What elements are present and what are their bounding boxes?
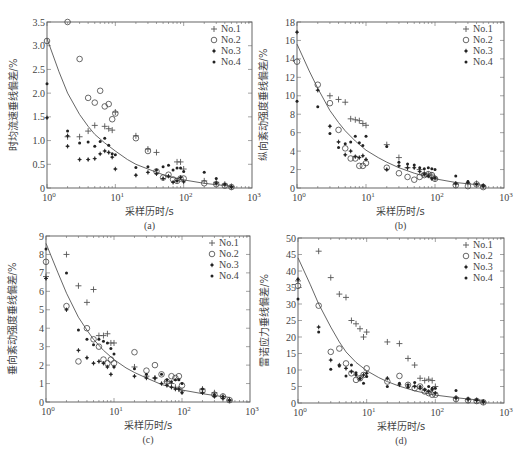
y-tick-label: 20	[286, 332, 296, 343]
marker-dot	[93, 145, 96, 148]
marker-dot	[66, 130, 69, 133]
x-tick-label: 103	[499, 191, 513, 203]
marker-dot	[102, 340, 105, 343]
marker-dot	[111, 152, 114, 155]
marker-dot	[406, 163, 409, 166]
y-axis-label: 纵向紊动强度垂线偏差/%	[257, 49, 269, 162]
y-tick-label: 35	[286, 282, 296, 293]
marker-dot	[361, 144, 364, 147]
marker-dot	[397, 161, 400, 164]
series-no4	[46, 82, 233, 188]
y-tick-label: 2.5	[33, 64, 46, 75]
y-tick-label: 0	[40, 183, 45, 194]
marker-star	[86, 157, 90, 161]
marker-star	[353, 154, 357, 158]
marker-dot	[431, 387, 434, 390]
marker-dot	[165, 378, 168, 381]
y-axis: 05101520253035404550	[286, 233, 504, 409]
panel-b: 100101102103024681012141618纵向紊动强度垂线偏差/%采…	[257, 17, 513, 233]
marker-dot	[107, 144, 110, 147]
marker-dot	[297, 298, 300, 301]
marker-plus	[429, 378, 435, 384]
marker-plus	[396, 155, 402, 161]
x-tick-label: 101	[361, 191, 375, 203]
marker-dot	[97, 338, 100, 341]
legend-label: No.1	[473, 23, 493, 34]
y-tick-label: 4	[39, 323, 44, 334]
marker-dot	[230, 185, 233, 188]
y-tick-label: 12	[285, 72, 295, 83]
marker-star	[132, 374, 136, 378]
marker-dot	[145, 373, 148, 376]
y-axis: 024681012141618	[285, 17, 504, 194]
y-tick-label: 0	[291, 398, 296, 409]
marker-plus	[356, 118, 362, 124]
marker-circle	[108, 357, 114, 363]
marker-circle	[176, 373, 182, 379]
marker-plus	[77, 134, 83, 140]
marker-plus	[342, 99, 348, 105]
marker-star	[210, 263, 214, 267]
legend-label: No.3	[473, 261, 493, 272]
y-tick-label: 0	[290, 183, 295, 194]
x-tick-label: 102	[177, 405, 191, 417]
x-tick-label: 102	[179, 191, 193, 203]
marker-dot	[329, 368, 332, 371]
marker-plus	[357, 326, 363, 332]
marker-plus	[209, 240, 215, 246]
marker-circle	[109, 116, 115, 122]
marker-star	[134, 173, 138, 177]
legend-label: No.2	[219, 248, 239, 259]
marker-dot	[85, 338, 88, 341]
marker-dot	[174, 378, 177, 381]
y-tick-label: 2	[39, 360, 44, 371]
series-no2	[44, 19, 234, 190]
legend-label: No.3	[473, 45, 493, 56]
marker-dot	[455, 389, 458, 392]
panel-c: 1001011021030123456789垂向紊动强度垂线偏差/%采样历时/s…	[6, 231, 259, 447]
marker-plus	[178, 159, 184, 165]
marker-star	[295, 30, 299, 34]
marker-star	[92, 361, 96, 365]
marker-plus	[109, 127, 115, 133]
marker-dot	[434, 387, 437, 390]
marker-plus	[353, 321, 359, 327]
legend-label: No.4	[219, 270, 239, 281]
marker-plus	[84, 299, 90, 305]
y-tick-label: 1.5	[33, 111, 46, 122]
marker-dot	[78, 141, 81, 144]
fit-curve	[47, 39, 231, 187]
marker-plus	[336, 291, 342, 297]
marker-circle	[76, 359, 82, 365]
marker-circle	[405, 174, 411, 180]
marker-circle	[343, 361, 349, 367]
series-no2	[294, 59, 486, 190]
marker-circle	[463, 253, 469, 259]
y-tick-label: 1	[39, 378, 44, 389]
marker-circle	[328, 349, 334, 355]
marker-plus	[396, 341, 402, 347]
marker-circle	[397, 373, 403, 379]
marker-dot	[106, 341, 109, 344]
marker-plus	[328, 275, 334, 281]
legend-label: No.2	[221, 34, 241, 45]
marker-dot	[365, 135, 368, 138]
marker-plus	[111, 340, 117, 346]
marker-dot	[211, 275, 214, 278]
marker-dot	[385, 145, 388, 148]
marker-plus	[361, 334, 367, 340]
marker-star	[78, 157, 82, 161]
marker-star	[317, 325, 321, 329]
marker-dot	[213, 61, 216, 64]
y-tick-label: 9	[39, 231, 44, 242]
marker-star	[349, 149, 353, 153]
fit-curve	[298, 258, 483, 401]
y-tick-label: 3.0	[33, 40, 46, 51]
marker-dot	[337, 146, 340, 149]
legend-label: No.2	[473, 250, 493, 261]
x-axis-label: 采样历时/s	[124, 419, 173, 431]
y-tick-label: 5	[291, 381, 296, 392]
fit-curve	[46, 243, 230, 397]
marker-dot	[328, 132, 331, 135]
marker-plus	[211, 26, 217, 32]
